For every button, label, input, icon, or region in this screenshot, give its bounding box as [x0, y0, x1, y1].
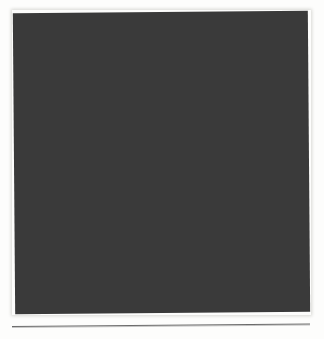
maze-pattern-figure — [13, 11, 310, 314]
maze-canvas — [13, 11, 310, 314]
page-root — [0, 0, 324, 339]
